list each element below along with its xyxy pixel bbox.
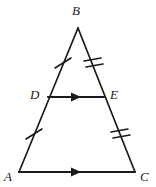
segment-ab <box>19 28 78 172</box>
parallel-arrow-de <box>71 93 81 102</box>
tick-mark-be <box>84 58 103 67</box>
triangle-diagram-svg <box>0 0 156 187</box>
vertex-label-d: D <box>30 88 39 101</box>
segment-bc <box>78 28 135 172</box>
geometry-figure: B D E A C <box>0 0 156 187</box>
vertex-label-b: B <box>72 4 80 17</box>
vertex-label-c: C <box>140 170 149 183</box>
vertex-label-a: A <box>4 170 12 183</box>
parallel-arrow-ac <box>71 168 81 177</box>
vertex-label-e: E <box>110 88 118 101</box>
